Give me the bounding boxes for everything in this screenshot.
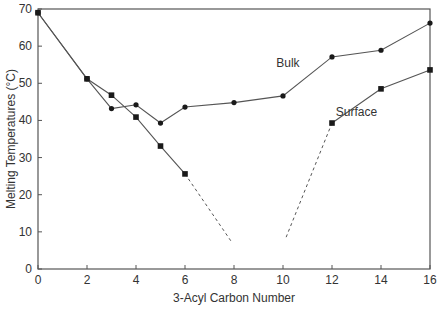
y-tick-label: 40 (19, 113, 33, 127)
x-tick-label: 8 (231, 273, 238, 287)
x-tick-label: 10 (276, 273, 290, 287)
x-tick-label: 6 (182, 273, 189, 287)
circle-marker (329, 54, 334, 59)
x-tick-label: 14 (374, 273, 388, 287)
circle-marker (427, 21, 432, 26)
circle-marker (133, 102, 138, 107)
y-tick-label: 60 (19, 39, 33, 53)
circle-marker (231, 100, 236, 105)
plot-border (38, 9, 430, 269)
square-marker (109, 92, 115, 98)
x-tick-label: 2 (84, 273, 91, 287)
dashed-extrapolation-line (285, 123, 332, 239)
x-tick-label: 16 (423, 273, 437, 287)
x-axis-label: 3-Acyl Carbon Number (173, 291, 295, 305)
x-tick-label: 12 (325, 273, 339, 287)
square-marker (35, 10, 41, 16)
plot-frame (38, 9, 430, 269)
circle-marker (378, 48, 383, 53)
melting-temperature-chart: 0246810121416 010203040506070 BulkSurfac… (0, 0, 441, 310)
dashed-extrapolation-line (185, 174, 232, 242)
square-marker (378, 86, 384, 92)
series-label-bulk: Bulk (276, 56, 300, 70)
square-marker (84, 76, 90, 82)
square-marker (182, 171, 188, 177)
x-axis-ticks: 0246810121416 (35, 265, 437, 287)
y-tick-label: 30 (19, 151, 33, 165)
square-marker (133, 114, 139, 120)
square-marker (427, 67, 433, 73)
circle-marker (109, 106, 114, 111)
y-axis-label: Melting Temperatures (°C) (4, 69, 18, 209)
y-tick-label: 20 (19, 188, 33, 202)
circle-marker (182, 104, 187, 109)
series-labels: BulkSurface (276, 56, 377, 119)
series-label-surface: Surface (336, 105, 378, 119)
x-tick-label: 0 (35, 273, 42, 287)
circle-marker (158, 120, 163, 125)
y-tick-label: 50 (19, 76, 33, 90)
y-tick-label: 70 (19, 2, 33, 16)
y-tick-label: 0 (25, 262, 32, 276)
y-tick-label: 10 (19, 225, 33, 239)
data-series (35, 10, 433, 177)
square-marker (158, 143, 164, 149)
extrapolation-lines (185, 123, 332, 242)
circle-marker (280, 93, 285, 98)
square-marker (329, 120, 335, 126)
x-tick-label: 4 (133, 273, 140, 287)
